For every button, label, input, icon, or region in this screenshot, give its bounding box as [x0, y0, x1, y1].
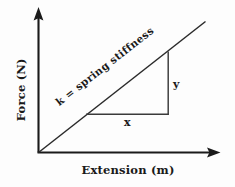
force-extension-diagram: Force (N) Extension (m) k = spring stiff… — [0, 0, 235, 187]
x-axis-title: Extension (m) — [60, 165, 196, 177]
rise-label: y — [173, 79, 179, 90]
y-axis-title: Force (N) — [16, 30, 28, 150]
run-label: x — [124, 117, 131, 128]
diagram-canvas — [0, 0, 235, 187]
data-line — [39, 22, 206, 153]
